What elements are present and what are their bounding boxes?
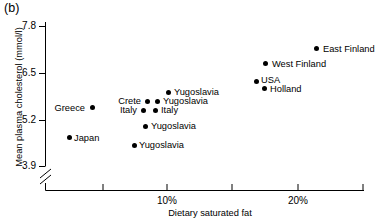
point-label-japan: Japan	[74, 134, 99, 143]
point-label-west-finland: West Finland	[272, 60, 326, 69]
data-point-japan	[67, 135, 72, 140]
point-label-yugoslavia-3: Yugoslavia	[151, 122, 196, 131]
x-axis-title: Dietary saturated fat	[110, 208, 310, 218]
point-label-holland: Holland	[270, 85, 302, 94]
x-tick-label-3: 20%	[278, 195, 318, 206]
data-point-holland	[262, 86, 267, 91]
data-point-west-finland	[263, 61, 268, 66]
y-axis-title: Mean plasma cholesterol (mmol/l)	[14, 12, 24, 182]
data-point-yugoslavia-3	[143, 124, 148, 129]
data-point-greece	[90, 105, 95, 110]
scatter-plot-figure: (b) 7.8 6.5 5.2 3.9 10% 20% Mean plasma …	[0, 0, 377, 222]
data-point-yugoslavia-4	[132, 143, 137, 148]
data-point-east-finland	[314, 46, 319, 51]
point-label-east-finland: East Finland	[323, 45, 375, 54]
data-point-usa	[254, 79, 259, 84]
x-tick-label-1: 10%	[147, 195, 187, 206]
data-point-yugoslavia-2	[155, 99, 160, 104]
data-point-italy-2	[153, 108, 158, 113]
point-label-greece: Greece	[55, 104, 86, 113]
axis-break-icon	[40, 169, 51, 184]
point-label-yugoslavia-4: Yugoslavia	[139, 141, 184, 150]
point-label-italy-2: Italy	[161, 106, 178, 115]
point-label-italy-1: Italy	[120, 106, 137, 115]
data-point-italy-1	[141, 108, 146, 113]
data-point-crete	[145, 99, 150, 104]
data-point-yugoslavia-1	[166, 90, 171, 95]
